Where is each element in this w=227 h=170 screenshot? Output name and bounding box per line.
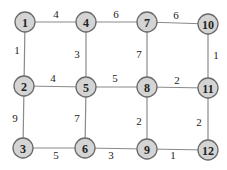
edge-weight-3-6: 5 [53, 149, 59, 161]
node-5: 5 [76, 77, 96, 97]
node-label: 7 [144, 16, 150, 30]
node-6: 6 [75, 138, 95, 158]
edge-weights-layer: 46613714529722531 [12, 8, 219, 161]
edge-weight-2-5: 4 [50, 72, 56, 84]
node-label: 11 [202, 82, 213, 96]
node-2: 2 [14, 76, 34, 96]
edge-weight-1-4: 4 [53, 8, 59, 20]
node-9: 9 [137, 139, 157, 159]
node-8: 8 [137, 77, 157, 97]
edge-weight-10-11: 1 [213, 49, 219, 61]
edge-weight-7-8: 7 [136, 48, 142, 60]
node-10: 10 [198, 14, 218, 34]
node-label: 12 [202, 144, 214, 158]
node-label: 10 [202, 18, 214, 32]
weighted-graph-diagram: 46613714529722531 147102581136912 [0, 0, 227, 170]
node-label: 1 [22, 16, 28, 30]
edges-layer [23, 22, 208, 150]
edge-weight-11-12: 2 [196, 116, 202, 128]
edge-weight-8-9: 2 [136, 115, 142, 127]
node-label: 9 [144, 143, 150, 157]
node-1: 1 [15, 12, 35, 32]
node-4: 4 [76, 12, 96, 32]
edge-weight-6-9: 3 [108, 149, 114, 161]
edge-weight-4-5: 3 [74, 48, 80, 60]
node-label: 5 [83, 81, 89, 95]
edge-weight-5-8: 5 [112, 72, 118, 84]
node-11: 11 [198, 78, 218, 98]
node-7: 7 [137, 12, 157, 32]
edge-weight-1-2: 1 [14, 44, 20, 56]
node-label: 3 [20, 142, 26, 156]
edge-weight-5-6: 7 [74, 112, 80, 124]
node-3: 3 [13, 138, 33, 158]
node-label: 4 [83, 16, 89, 30]
edge-weight-8-11: 2 [174, 74, 180, 86]
edge-weight-2-3: 9 [12, 112, 18, 124]
edge-weight-4-7: 6 [113, 8, 119, 20]
edge-weight-7-10: 6 [173, 9, 179, 21]
node-label: 2 [21, 80, 27, 94]
edge-weight-9-12: 1 [170, 149, 176, 161]
node-12: 12 [198, 140, 218, 160]
node-label: 6 [82, 142, 88, 156]
node-label: 8 [144, 81, 150, 95]
